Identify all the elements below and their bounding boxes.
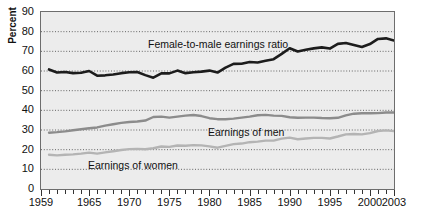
y-tick-80: 80 [8, 26, 34, 37]
x-tick-1996 [338, 190, 339, 194]
x-tick-1967 [105, 190, 106, 194]
x-tick-1973 [153, 190, 154, 194]
x-tick-1976 [177, 190, 178, 194]
y-tick-40: 40 [8, 104, 34, 115]
x-tick-1998 [354, 190, 355, 194]
x-tick-1974 [161, 190, 162, 194]
x-axis-tick-labels: 1959196519701975198019851990199520002003 [0, 197, 422, 215]
x-tick-1991 [298, 190, 299, 194]
x-label-1975: 1975 [149, 197, 189, 208]
x-tick-1979 [201, 190, 202, 194]
y-tick-10: 10 [8, 163, 34, 174]
x-tick-1968 [113, 190, 114, 194]
x-tick-1972 [145, 190, 146, 194]
x-label-1995: 1995 [310, 197, 350, 208]
x-tick-1994 [322, 190, 323, 194]
y-tick-50: 50 [8, 85, 34, 96]
x-tick-1966 [97, 190, 98, 194]
x-tick-1988 [274, 190, 275, 194]
y-tick-90: 90 [8, 6, 34, 17]
x-tick-2001 [378, 190, 379, 194]
x-label-2003: 2003 [374, 197, 414, 208]
x-tick-1978 [193, 190, 194, 194]
x-tick-1961 [57, 190, 58, 194]
x-tick-1963 [73, 190, 74, 194]
y-tick-20: 20 [8, 144, 34, 155]
x-tick-1962 [65, 190, 66, 194]
chart-figure: Percent 0102030405060708090 195919651970… [0, 0, 422, 224]
x-tick-1960 [49, 190, 50, 194]
y-tick-70: 70 [8, 45, 34, 56]
x-tick-1989 [282, 190, 283, 194]
annotation-men: Earnings of men [208, 126, 284, 138]
annotation-women: Earnings of women [88, 159, 178, 171]
x-tick-1971 [137, 190, 138, 194]
x-tick-1997 [346, 190, 347, 194]
y-axis-tick-labels: 0102030405060708090 [8, 0, 34, 224]
x-label-1990: 1990 [270, 197, 310, 208]
x-tick-1982 [226, 190, 227, 194]
x-label-1980: 1980 [189, 197, 229, 208]
x-tick-1992 [306, 190, 307, 194]
annotation-ratio: Female-to-male earnings ratio [148, 38, 288, 50]
x-tick-1984 [242, 190, 243, 194]
y-tick-60: 60 [8, 65, 34, 76]
x-tick-1977 [185, 190, 186, 194]
x-tick-1993 [314, 190, 315, 194]
x-tick-1969 [121, 190, 122, 194]
x-tick-2002 [386, 190, 387, 194]
x-tick-1986 [258, 190, 259, 194]
x-label-1970: 1970 [109, 197, 149, 208]
x-tick-1999 [362, 190, 363, 194]
x-label-1965: 1965 [69, 197, 109, 208]
x-label-1985: 1985 [230, 197, 270, 208]
x-tick-1981 [218, 190, 219, 194]
x-label-1959: 1959 [21, 197, 61, 208]
x-tick-1987 [266, 190, 267, 194]
x-tick-1983 [234, 190, 235, 194]
y-tick-0: 0 [8, 183, 34, 194]
x-tick-1964 [81, 190, 82, 194]
y-tick-30: 30 [8, 124, 34, 135]
